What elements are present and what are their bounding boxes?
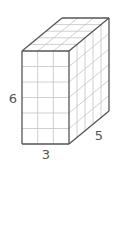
- width-label: 3: [42, 148, 50, 161]
- height-label: 6: [9, 92, 17, 105]
- depth-label: 5: [95, 129, 103, 142]
